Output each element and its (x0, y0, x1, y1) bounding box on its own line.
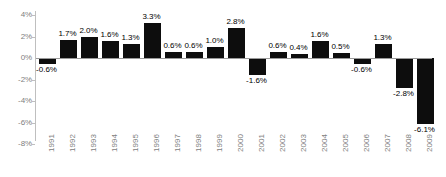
y-axis-tick-label: -2% (2, 76, 32, 84)
x-axis-tick-label: 1994 (111, 134, 119, 152)
y-axis-tick-label: 2% (2, 33, 32, 41)
x-axis-tick-label: 1999 (216, 134, 224, 152)
bar[interactable] (123, 44, 140, 58)
x-axis-tick-label: 2003 (300, 134, 308, 152)
x-axis-tick-label: 2001 (258, 134, 266, 152)
x-axis-tick: 2009 (415, 141, 436, 177)
x-axis-tick: 1996 (142, 141, 163, 177)
y-axis-tick-label: -8% (2, 140, 32, 148)
bar-group: 1.3% (373, 0, 394, 141)
x-axis-tick-label: 2004 (321, 134, 329, 152)
x-axis: 1991199219931994199519961997199819992000… (36, 141, 432, 177)
bar-group: -1.6% (247, 0, 268, 141)
x-axis-tick: 1998 (184, 141, 205, 177)
x-axis-tick-label: 2000 (237, 134, 245, 152)
bar-group: -0.6% (352, 0, 373, 141)
bar-group: 0.6% (184, 0, 205, 141)
x-axis-tick-label: 2008 (405, 134, 413, 152)
y-axis-tick-mark (32, 144, 35, 145)
bar[interactable] (417, 58, 434, 124)
x-axis-tick-label: 1997 (174, 134, 182, 152)
bar-group: 0.6% (268, 0, 289, 141)
y-axis-tick-label: -4% (2, 97, 32, 105)
zero-baseline (36, 58, 432, 59)
x-axis-tick-label: 2007 (384, 134, 392, 152)
bar-chart: 4%2%0%-2%-4%-6%-8% -0.6%1.7%2.0%1.6%1.3%… (0, 0, 446, 177)
bar[interactable] (81, 37, 98, 59)
x-axis-tick-label: 2002 (279, 134, 287, 152)
x-axis-tick: 1997 (163, 141, 184, 177)
bar[interactable] (60, 40, 77, 58)
bar[interactable] (249, 58, 266, 75)
x-axis-tick-label: 1995 (132, 134, 140, 152)
bar-group: 2.0% (79, 0, 100, 141)
x-axis-tick: 2003 (289, 141, 310, 177)
x-axis-tick-label: 2009 (426, 134, 434, 152)
y-axis-tick-label: -6% (2, 119, 32, 127)
x-axis-tick-label: 2005 (342, 134, 350, 152)
bar-group: 2.8% (226, 0, 247, 141)
x-axis-tick: 2000 (226, 141, 247, 177)
x-axis-tick: 2002 (268, 141, 289, 177)
y-axis-tick-label: 0% (2, 54, 32, 62)
bar-group: 1.6% (100, 0, 121, 141)
x-axis-tick: 1991 (37, 141, 58, 177)
x-axis-tick: 1993 (79, 141, 100, 177)
bar-group: 1.6% (310, 0, 331, 141)
x-axis-tick: 2008 (394, 141, 415, 177)
plot-area: -0.6%1.7%2.0%1.6%1.3%3.3%0.6%0.6%1.0%2.8… (36, 0, 432, 141)
x-axis-tick-label: 1992 (69, 134, 77, 152)
bar-group: -2.8% (394, 0, 415, 141)
bar-group: 0.6% (163, 0, 184, 141)
x-axis-tick-label: 2006 (363, 134, 371, 152)
x-axis-tick: 1994 (100, 141, 121, 177)
x-axis-tick: 1992 (58, 141, 79, 177)
x-axis-tick-label: 1996 (153, 134, 161, 152)
bar[interactable] (375, 44, 392, 58)
x-axis-tick-label: 1998 (195, 134, 203, 152)
bar-group: 1.7% (58, 0, 79, 141)
bar[interactable] (396, 58, 413, 88)
x-axis-tick-label: 1993 (90, 134, 98, 152)
bar-group: 3.3% (142, 0, 163, 141)
bar[interactable] (228, 28, 245, 58)
x-axis-tick: 1995 (121, 141, 142, 177)
bar-group: 1.3% (121, 0, 142, 141)
x-axis-tick: 2001 (247, 141, 268, 177)
y-axis-tick-label: 4% (2, 11, 32, 19)
bar[interactable] (102, 41, 119, 58)
x-axis-tick: 2006 (352, 141, 373, 177)
x-axis-tick: 1999 (205, 141, 226, 177)
bar-value-label: -6.1% (405, 125, 445, 134)
x-axis-tick: 2005 (331, 141, 352, 177)
x-axis-tick: 2004 (310, 141, 331, 177)
bar[interactable] (207, 47, 224, 58)
x-axis-tick: 2007 (373, 141, 394, 177)
bar-group: -0.6% (37, 0, 58, 141)
bar-group: 0.4% (289, 0, 310, 141)
x-axis-tick-label: 1991 (48, 134, 56, 152)
bar-group: -6.1% (415, 0, 436, 141)
